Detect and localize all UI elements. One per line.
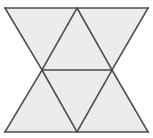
triangle-tessellation-svg bbox=[0, 0, 153, 138]
figure-canvas bbox=[0, 0, 153, 138]
